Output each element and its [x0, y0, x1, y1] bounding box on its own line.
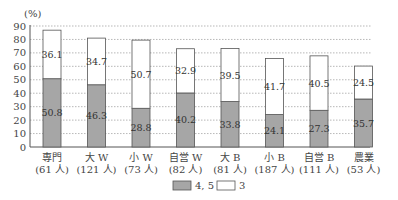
x-category-count: (61 人) — [35, 164, 69, 175]
y-tick-label: 0 — [20, 142, 26, 153]
legend-label-45: 4, 5 — [195, 180, 214, 191]
stacked-bar-chart: (%) 0102030405060708090 50.836.146.334.7… — [0, 0, 398, 200]
x-category-count: (81 人) — [213, 164, 247, 175]
y-tick-label: 50 — [13, 74, 26, 85]
x-category-label: 大 B — [220, 151, 241, 163]
bar-value-label: 46.3 — [86, 110, 107, 121]
legend: 4, 5 3 — [173, 180, 245, 191]
x-category-label: 自営 W — [169, 151, 203, 163]
bar-value-label: 41.7 — [264, 81, 285, 92]
y-tick-label: 20 — [13, 115, 26, 126]
bar-value-label: 34.7 — [86, 56, 107, 67]
bar-value-label: 36.1 — [41, 49, 62, 60]
y-tick-label: 40 — [13, 88, 26, 99]
bar-value-label: 28.8 — [130, 122, 151, 133]
x-category-label: 小 B — [264, 152, 285, 163]
y-tick-label: 30 — [13, 101, 26, 112]
bar-value-label: 24.1 — [264, 125, 285, 136]
bar-value-label: 50.7 — [130, 69, 151, 80]
bar-value-label: 40.2 — [175, 114, 196, 125]
legend-label-3: 3 — [239, 180, 245, 191]
x-category-count: (82 人) — [169, 164, 203, 175]
legend-swatch-45 — [173, 181, 191, 190]
legend-swatch-3 — [217, 181, 235, 190]
bars: 50.836.146.334.728.850.740.232.933.839.5… — [41, 30, 374, 147]
x-category-label: 小 W — [129, 152, 153, 163]
y-tick-label: 80 — [13, 34, 26, 45]
bar-value-label: 50.8 — [41, 107, 62, 118]
x-category-label: 専門 — [42, 152, 62, 163]
y-axis-label: (%) — [24, 8, 41, 19]
bar-value-label: 27.3 — [308, 123, 329, 134]
x-category-count: (187 人) — [254, 164, 294, 175]
bar-value-label: 35.7 — [353, 118, 374, 129]
x-category-count: (73 人) — [124, 164, 158, 175]
bar-value-label: 32.9 — [175, 65, 196, 76]
x-axis-labels: 専門(61 人)大 W(121 人)小 W(73 人)自営 W(82 人)大 B… — [35, 151, 380, 175]
x-category-label: 農業 — [354, 151, 374, 163]
x-category-label: 大 W — [85, 151, 109, 163]
x-category-count: (121 人) — [76, 164, 116, 175]
x-category-count: (53 人) — [347, 164, 381, 175]
y-tick-label: 90 — [13, 21, 26, 32]
bar-value-label: 24.5 — [353, 77, 374, 88]
x-category-count: (111 人) — [299, 164, 339, 175]
y-tick-label: 60 — [13, 61, 26, 72]
y-axis-ticks: 0102030405060708090 — [13, 21, 26, 153]
y-tick-label: 10 — [13, 128, 26, 139]
x-category-label: 自営 B — [304, 151, 335, 163]
bar-value-label: 33.8 — [219, 119, 240, 130]
bar-value-label: 39.5 — [219, 70, 240, 81]
y-tick-label: 70 — [13, 47, 26, 58]
bar-value-label: 40.5 — [308, 78, 329, 89]
